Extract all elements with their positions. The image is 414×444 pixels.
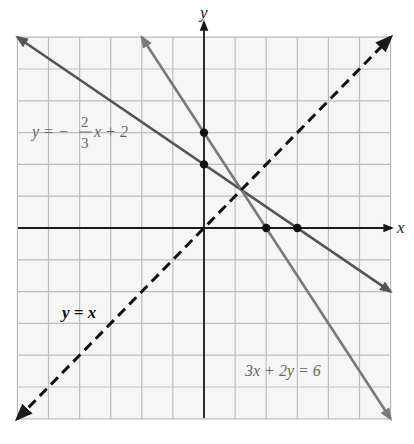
label-line-y-eq-x: y = x [60, 303, 97, 322]
intercept-point [200, 128, 208, 136]
intercept-point [262, 224, 270, 232]
line1-label-denominator: 3 [81, 135, 89, 151]
label-line-3x-plus-2y-eq-6: 3x + 2y = 6 [244, 362, 321, 380]
line1-label-rhs: x + 2 [93, 123, 128, 140]
y-axis-label: y [198, 3, 208, 22]
coordinate-plane: x y y = − 2 3 x + 2 3x + 2y = 6 y = x [0, 0, 414, 444]
intercept-point [293, 224, 301, 232]
x-axis-label: x [396, 218, 405, 237]
line1-label-lhs: y = − [30, 123, 69, 141]
line1-label-numerator: 2 [81, 114, 89, 130]
intercept-point [200, 160, 208, 168]
